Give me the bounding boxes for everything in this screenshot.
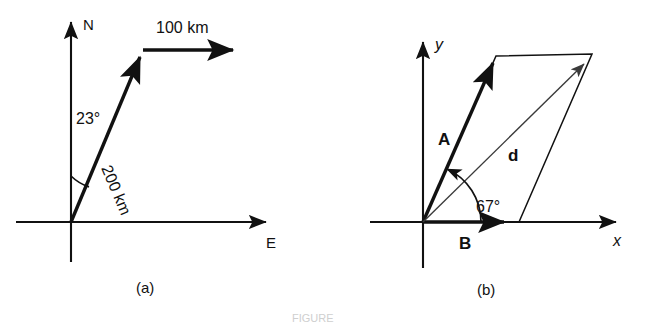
panel-a-north-label: N <box>83 16 94 33</box>
panel-a-caption: (a) <box>136 279 154 296</box>
panel-a-magnitude-200km-label: 200 km <box>98 163 134 218</box>
panel-b-caption: (b) <box>477 281 495 298</box>
panel-a-magnitude-100km-label: 100 km <box>156 19 208 36</box>
panel-b-label-a: A <box>438 130 450 149</box>
panel-b: y x A B d 67° (b) <box>370 36 622 298</box>
physics-vector-figure: N E 23° 100 km 200 km (a) <box>0 0 645 325</box>
panel-b-label-d: d <box>508 146 518 165</box>
panel-b-y-label: y <box>434 36 444 53</box>
panel-b-x-label: x <box>612 232 622 249</box>
panel-a-east-label: E <box>266 234 276 251</box>
panel-a: N E 23° 100 km 200 km (a) <box>16 16 276 296</box>
figure-footer-partial-text: FIGURE <box>292 312 334 324</box>
figure-canvas: N E 23° 100 km 200 km (a) <box>0 0 645 325</box>
panel-b-angle-label: 67° <box>476 198 500 215</box>
panel-b-label-b: B <box>459 234 471 253</box>
panel-a-angle-label: 23° <box>76 110 100 127</box>
